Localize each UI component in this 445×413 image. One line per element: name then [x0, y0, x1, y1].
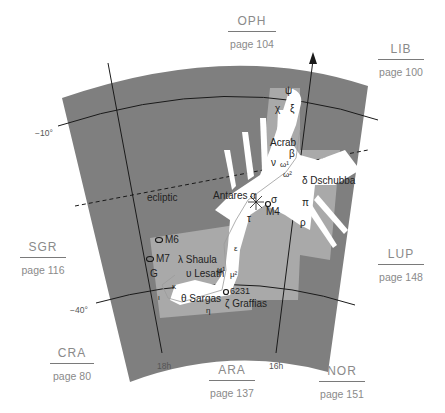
- star-sargas: θ Sargas: [181, 293, 221, 304]
- star-m6: M6: [165, 234, 179, 245]
- star-dschubba: δ Dschubba: [302, 175, 355, 186]
- star-lesath: υ Lesath: [186, 268, 224, 279]
- ra-label-16h: 16h: [269, 361, 283, 371]
- star-epsilon: ε: [234, 244, 238, 253]
- star-rho: ρ: [300, 217, 306, 228]
- star-xi: ξ: [290, 103, 294, 114]
- neighbor-lib[interactable]: LIB page 100: [378, 42, 424, 78]
- star-eta: η: [206, 306, 210, 315]
- star-psi: ψ: [285, 85, 292, 96]
- star-antares: Antares α: [213, 190, 256, 201]
- neighbor-nor[interactable]: NOR page 151: [319, 364, 365, 400]
- neighbor-abbr: OPH: [228, 14, 276, 32]
- neighbor-page: page 151: [319, 388, 365, 400]
- star-m7: M7: [156, 253, 170, 264]
- neighbor-page: page 100: [378, 66, 424, 78]
- star-ngc6231: 6231: [230, 286, 250, 296]
- star-g: G: [150, 268, 158, 279]
- neighbor-abbr: SGR: [20, 240, 66, 258]
- neighbor-abbr: CRA: [50, 346, 94, 364]
- neighbor-page: page 148: [378, 271, 424, 283]
- north-arrow-icon: [309, 52, 317, 64]
- star-tau: τ: [247, 213, 251, 224]
- neighbor-cra[interactable]: CRA page 80: [50, 346, 94, 382]
- dec-label-minus10: −10°: [35, 128, 53, 138]
- star-kappa: κ: [172, 282, 176, 291]
- ecliptic-label: ecliptic: [147, 192, 178, 203]
- star-mu2: μ²: [230, 270, 237, 279]
- star-graffias: ζ Graffias: [225, 298, 267, 309]
- star-m4: M4: [266, 206, 280, 217]
- dec-label-minus40: −40°: [70, 305, 88, 315]
- neighbor-page: page 137: [209, 387, 255, 399]
- star-sigma: σ: [271, 194, 277, 205]
- neighbor-sgr[interactable]: SGR page 116: [20, 240, 66, 276]
- neighbor-abbr: LIB: [378, 42, 424, 60]
- neighbor-oph[interactable]: OPH page 104: [228, 14, 276, 50]
- star-beta: β: [289, 148, 295, 159]
- neighbor-page: page 116: [20, 264, 66, 276]
- neighbor-abbr: LUP: [378, 247, 424, 265]
- neighbor-lup[interactable]: LUP page 148: [378, 247, 424, 283]
- star-iota: ι: [158, 293, 160, 302]
- neighbor-abbr: ARA: [209, 363, 255, 381]
- star-nu: ν: [271, 157, 276, 168]
- star-chi: χ: [275, 103, 280, 114]
- neighbor-abbr: NOR: [319, 364, 365, 382]
- neighbor-page: page 80: [50, 370, 94, 382]
- neighbor-ara[interactable]: ARA page 137: [209, 363, 255, 399]
- star-omega2: ω²: [283, 170, 292, 179]
- star-pi: π: [302, 197, 309, 208]
- star-acrab: Acrab: [270, 137, 296, 148]
- neighbor-page: page 104: [228, 38, 276, 50]
- ra-label-18h: 18h: [157, 361, 171, 371]
- star-omega1: ω¹: [280, 160, 289, 169]
- star-shaula: λ Shaula: [178, 254, 217, 265]
